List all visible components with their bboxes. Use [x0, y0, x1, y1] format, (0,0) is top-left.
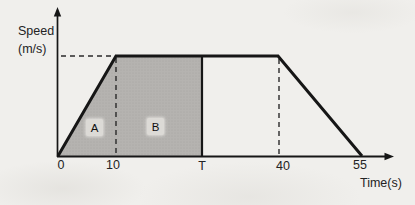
region-b-shape: [116, 56, 202, 156]
region-b-label: B: [147, 118, 164, 135]
y-axis-title-line1: Speed: [18, 22, 54, 40]
x-axis-title: Time(s): [360, 177, 402, 190]
region-a-label: A: [86, 119, 103, 136]
speed-time-graph-figure: Speed (m/s) Time(s) 0 10 T 40 55 A B: [0, 0, 415, 205]
y-axis-arrow-icon: [54, 7, 61, 17]
graph-canvas: [0, 0, 415, 205]
tick-label-55: 55: [353, 159, 367, 172]
tick-label-T: T: [198, 160, 206, 173]
tick-label-40: 40: [276, 160, 290, 173]
y-axis-title: Speed (m/s): [18, 22, 54, 58]
tick-label-10: 10: [106, 159, 120, 172]
x-axis-arrow-icon: [385, 153, 395, 160]
y-axis-title-line2: (m/s): [18, 40, 54, 58]
tick-label-0: 0: [58, 159, 65, 172]
